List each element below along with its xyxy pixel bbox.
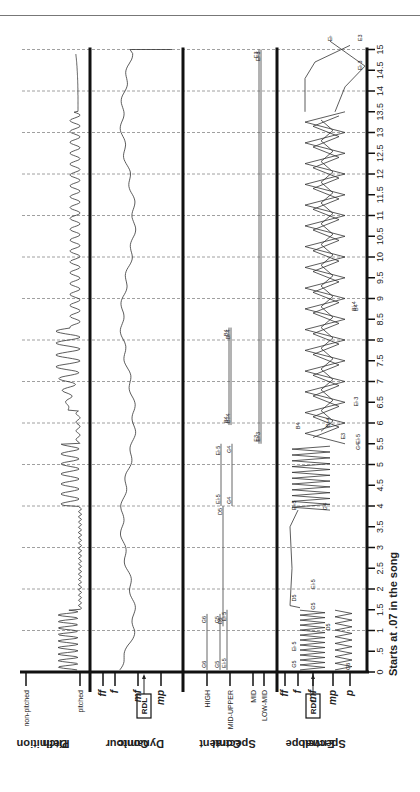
envelope-note-label: E♭ [327,35,333,42]
scale-label: MID [250,690,257,703]
envelope-zigzag [305,112,345,444]
note-label: G4 [226,446,232,453]
data-curves [56,41,365,670]
time-tick-label: 10.5 [375,227,385,245]
time-gridlines [22,50,367,631]
rotated-chart: 0.511.522.533.544.555.566.577.588.599.51… [0,0,420,792]
envelope-note-label: B♭4 [325,417,331,427]
time-tick-label: 10 [375,252,385,262]
panel-title: Content [199,738,241,750]
time-tick-label: 9 [375,296,385,301]
scale-label: mp [327,690,338,705]
note-label: E♭3 [255,432,261,442]
envelope-note-label: B4 [353,304,359,311]
scale-label: non-pitched [23,690,31,727]
envelope-note-label: E♭5 [310,579,316,589]
time-tick-label: 11.5 [375,186,385,203]
time-tick-label: 14.5 [375,61,385,79]
scale-label: ff [279,688,290,696]
scale-label: f [292,688,303,693]
note-label: D5 [217,617,223,624]
envelope-note-label: G4 [322,503,328,510]
scale-label: HIGH [204,690,211,708]
x-axis-caption: Starts at .07 in the song [387,552,399,676]
envelope-note-label: E♭5 [355,434,361,444]
envelope-zigzag [313,116,339,438]
time-tick-label: 2.5 [375,562,385,575]
rdl-label: RDL [140,698,149,715]
time-tick-label: 3 [375,545,385,550]
envelope-g6 [335,610,352,670]
envelope-note-label: G5 [291,661,297,668]
scale-label: mp [155,690,166,705]
envelope-note-label: E♭3 [353,397,359,407]
scale-label: MID-UPPER [227,690,234,729]
time-tick-label: 6 [375,420,385,425]
envelope-note-label: G5 [310,602,316,609]
panel-title: Definition [16,738,67,750]
envelope-note-label: D5 [291,594,297,601]
time-tick-label: .5 [375,647,385,655]
time-tick-label: 8 [375,337,385,342]
note-annotations: G6G6G5G5E♭5E♭5D5D5E♭5E♭5G4G4B4B4B♭4B♭4E3… [201,34,363,669]
time-tick-label: 13 [375,127,385,137]
time-tick-label: 5 [375,462,385,467]
scale-label: ff [97,688,108,696]
time-tick-labels: 0.511.522.533.544.555.566.577.588.599.51… [375,44,399,676]
time-tick-label: 7 [375,379,385,384]
envelope-note-label: D5 [325,623,331,630]
time-tick-label: 9.5 [375,271,385,284]
scale-label: pitched [77,690,85,713]
time-tick-label: 14 [375,86,385,96]
time-tick-label: 2 [375,586,385,591]
time-tick-label: 13.5 [375,103,385,121]
envelope-note-label: E♭3 [357,61,363,71]
time-tick-label: 12 [375,169,385,179]
envelope-note-label: B4 [295,422,301,429]
time-tick-label: 11 [375,211,385,220]
note-label: E♭5 [221,658,227,668]
time-tick-label: 0 [375,669,385,674]
dynamic-contour [120,50,172,670]
time-tick-label: 6.5 [375,396,385,409]
envelope-d5 [290,510,300,608]
scale-label: p [344,690,355,697]
note-label: E♭5 [215,494,221,504]
envelope-e3 [305,45,350,111]
time-tick-label: 12.5 [375,144,385,162]
note-label: B♭4 [225,330,231,340]
time-tick-label: 4 [375,503,385,508]
scale-labels: non-pitchedpitchedfffmfmpHIGHMID-UPPERMI… [16,688,355,750]
note-label: D5 [217,508,223,515]
envelope-note-label: E♭5 [291,642,297,652]
envelope-note-label: E3 [357,34,363,41]
note-label: G5 [214,661,220,668]
time-tick-label: 15 [375,44,385,54]
note-label: E♭3 [255,52,261,62]
time-tick-label: 1 [375,628,385,633]
envelope-note-label: E♭5 [291,500,297,510]
scale-label: f [109,688,120,693]
envelope-eb3 [335,66,365,112]
pitch-contour [56,54,82,670]
time-tick-label: 1.5 [375,603,385,616]
time-tick-label: 3.5 [375,520,385,533]
envelope-g5 [300,610,325,670]
note-label: G6 [201,661,207,668]
time-tick-label: 7.5 [375,354,385,367]
note-label: B♭4 [225,413,231,423]
note-label: G6 [201,616,207,623]
note-label: E♭5 [215,446,221,456]
panel-title: Envelope [286,738,335,750]
envelope-note-label: E3 [340,433,346,440]
panel-title: Contour [105,738,148,750]
rdl-label: RDL [309,698,318,715]
envelope-note-label: G6 [345,663,351,670]
time-tick-label: 4.5 [375,479,385,492]
time-tick-label: 5.5 [375,437,385,450]
envelope-eb5-g4 [292,446,330,510]
scale-label: LOW-MID [261,690,268,721]
time-tick-label: 8.5 [375,313,385,326]
note-label: G4 [226,497,232,504]
